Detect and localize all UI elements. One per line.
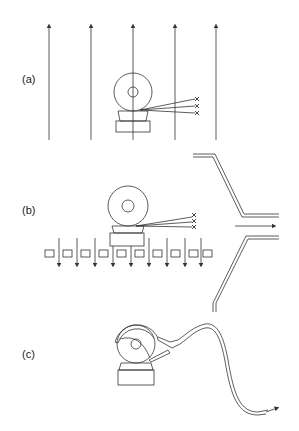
grinding-wheel-b: [108, 186, 192, 246]
spark-markers-a: [195, 97, 199, 115]
perforated-table: [45, 250, 212, 257]
upward-airflow-arrows: [49, 26, 216, 140]
spark-markers-b: [192, 213, 196, 229]
hooded-grinding-wheel-c: [115, 325, 170, 385]
diagram: [0, 0, 299, 431]
extraction-duct: [193, 154, 279, 312]
grinding-wheel-a: [114, 73, 195, 132]
extraction-hose: [158, 324, 277, 415]
